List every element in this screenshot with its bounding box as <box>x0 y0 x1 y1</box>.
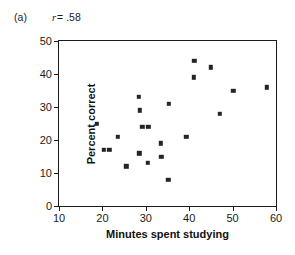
panel-letter: (a) <box>14 11 27 23</box>
data-point <box>209 65 213 69</box>
data-point <box>184 134 188 138</box>
data-point <box>192 75 196 79</box>
x-axis-tick-label: 30 <box>140 213 152 224</box>
x-axis-tick-label: 20 <box>96 213 108 224</box>
x-axis-title: Minutes spent studying <box>58 228 277 240</box>
correlation-value: = .58 <box>57 11 81 23</box>
x-axis-tick <box>233 206 234 211</box>
y-axis-tick-label: 30 <box>40 102 52 113</box>
y-axis-tick-label: 40 <box>40 69 52 80</box>
x-axis-tick <box>189 206 190 211</box>
x-axis-tick <box>276 206 277 211</box>
data-point <box>217 111 221 115</box>
plot-area: 01020304050 102030405060 Percent correct <box>58 40 277 207</box>
data-point <box>145 161 149 165</box>
correlation-annotation: r= .58 <box>52 11 81 23</box>
y-axis-tick-label: 50 <box>40 36 52 47</box>
data-point <box>140 125 144 129</box>
x-axis-tick <box>102 206 103 211</box>
data-point <box>231 88 235 92</box>
data-point <box>101 148 105 152</box>
data-point <box>124 164 128 168</box>
x-axis-tick-label: 50 <box>226 213 238 224</box>
data-point <box>146 125 150 129</box>
y-axis-tick <box>54 41 59 42</box>
data-point <box>137 95 141 99</box>
y-axis-tick-label: 0 <box>46 201 52 212</box>
x-axis-tick <box>146 206 147 211</box>
x-axis-tick-label: 10 <box>53 213 65 224</box>
y-axis-tick <box>54 74 59 75</box>
data-point <box>107 148 111 152</box>
y-axis-tick-label: 20 <box>40 135 52 146</box>
data-point <box>265 85 269 89</box>
y-axis-tick-label: 10 <box>40 168 52 179</box>
y-axis-tick <box>54 140 59 141</box>
data-point <box>192 59 196 63</box>
y-axis-tick <box>54 173 59 174</box>
data-point <box>159 154 163 158</box>
scatter-plot-figure: (a) r= .58 01020304050 102030405060 Perc… <box>0 0 295 255</box>
data-point <box>137 151 141 155</box>
data-point <box>167 101 171 105</box>
x-axis-tick <box>59 206 60 211</box>
data-point <box>115 134 119 138</box>
data-point <box>158 141 162 145</box>
y-axis-title: Percent correct <box>85 40 97 207</box>
x-axis-tick-label: 40 <box>183 213 195 224</box>
y-axis-tick <box>54 107 59 108</box>
x-axis-tick-label: 60 <box>270 213 282 224</box>
data-point <box>166 177 170 181</box>
data-point <box>138 108 142 112</box>
